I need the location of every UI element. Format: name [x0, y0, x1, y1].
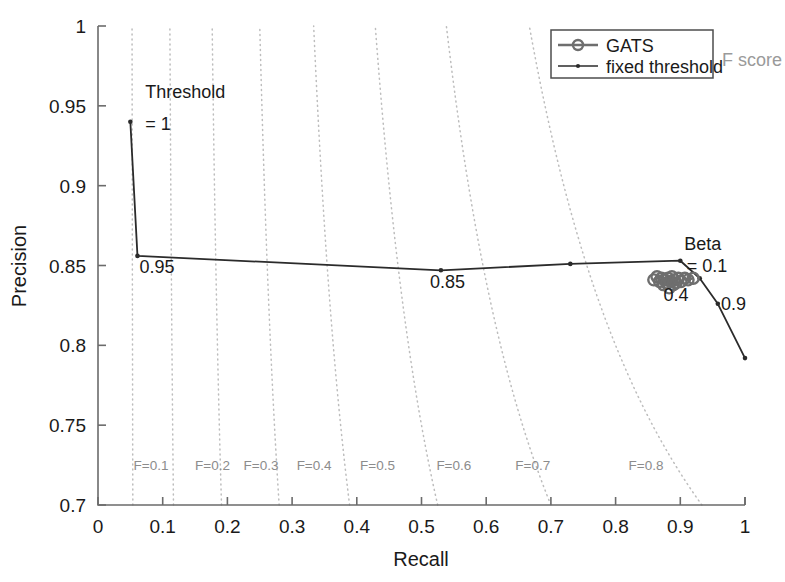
x-axis-tick-labels: 00.10.20.30.40.50.60.70.80.91	[93, 516, 751, 537]
iso-f-label: F=0.8	[629, 458, 664, 473]
y-tick-label: 1	[75, 16, 86, 37]
iso-f-curve	[375, 26, 437, 505]
threshold-0-95-label: 0.95	[139, 257, 174, 277]
iso-f-label: F=0.4	[297, 458, 332, 473]
y-tick-label: 0.9	[60, 176, 86, 197]
y-axis-title: Precision	[8, 225, 30, 307]
threshold-0-85-label: 0.85	[430, 272, 465, 292]
fixed-threshold-point	[743, 356, 748, 361]
threshold-0-9-label: 0.9	[721, 294, 746, 314]
f-score-caption: F score	[722, 50, 782, 70]
iso-f-label: F=0.5	[360, 458, 395, 473]
x-tick-label: 0	[93, 516, 104, 537]
x-tick-label: 0.1	[149, 516, 175, 537]
legend-fixed-label: fixed threshold	[606, 57, 723, 77]
series-fixed-threshold	[128, 120, 747, 361]
x-tick-label: 0.5	[408, 516, 434, 537]
y-axis-tick-labels: 0.70.750.80.850.90.951	[49, 16, 86, 516]
iso-f-labels: F=0.1F=0.2F=0.3F=0.4F=0.5F=0.6F=0.7F=0.8	[134, 458, 664, 473]
iso-f-curve	[260, 26, 279, 505]
fixed-threshold-line	[130, 122, 745, 358]
threshold-annotation-line1: Threshold	[145, 82, 225, 102]
x-tick-label: 0.3	[279, 516, 305, 537]
x-axis-ticks	[98, 497, 745, 505]
x-tick-label: 0.7	[538, 516, 564, 537]
x-tick-label: 0.6	[473, 516, 499, 537]
y-tick-label: 0.75	[49, 415, 86, 436]
iso-f-label: F=0.6	[436, 458, 471, 473]
y-tick-label: 0.85	[49, 256, 86, 277]
beta-0-4-label: 0.4	[663, 285, 688, 305]
legend[interactable]: GATS fixed threshold	[551, 30, 723, 78]
x-axis-title: Recall	[393, 548, 449, 570]
iso-f-label: F=0.7	[515, 458, 550, 473]
x-tick-label: 0.2	[214, 516, 240, 537]
y-tick-label: 0.8	[60, 335, 86, 356]
legend-gats-label: GATS	[606, 36, 654, 56]
fixed-threshold-point	[678, 258, 683, 263]
iso-f-label: F=0.1	[134, 458, 169, 473]
y-axis-ticks	[98, 26, 106, 505]
iso-f-label: F=0.3	[244, 458, 279, 473]
y-tick-label: 0.7	[60, 495, 86, 516]
x-tick-label: 0.8	[602, 516, 628, 537]
threshold-annotation-line2: = 1	[145, 114, 171, 134]
legend-fixed-marker	[576, 64, 580, 68]
iso-f-label: F=0.2	[195, 458, 230, 473]
beta-value-label: = 0.1	[687, 256, 728, 276]
beta-annotation-label: Beta	[684, 234, 722, 254]
fixed-threshold-point	[568, 262, 573, 267]
iso-f-curve	[132, 26, 133, 505]
x-tick-label: 0.4	[344, 516, 371, 537]
y-tick-label: 0.95	[49, 96, 86, 117]
x-tick-label: 0.9	[667, 516, 693, 537]
fixed-threshold-point	[128, 120, 133, 125]
fixed-threshold-point	[716, 302, 721, 307]
precision-recall-figure: 00.10.20.30.40.50.60.70.80.91 0.70.750.8…	[0, 0, 785, 582]
plot-canvas: 00.10.20.30.40.50.60.70.80.91 0.70.750.8…	[0, 0, 785, 582]
x-tick-label: 1	[740, 516, 751, 537]
